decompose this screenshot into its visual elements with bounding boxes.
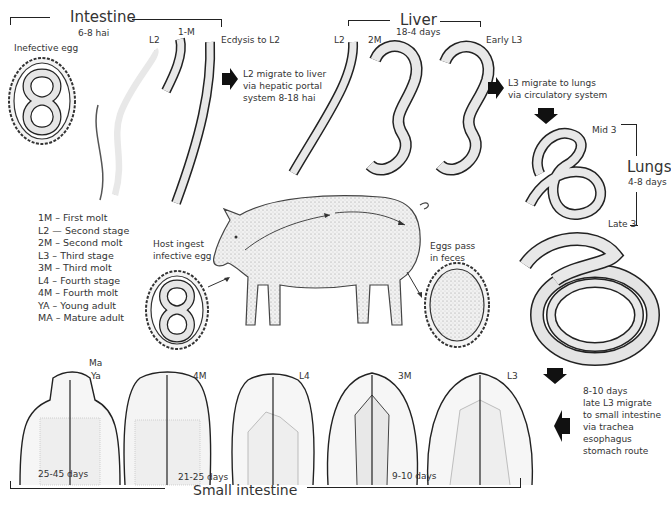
note-to-intestine: 8-10 days late L3 migrate to small intes… xyxy=(583,385,661,457)
intestine-bracket-left xyxy=(10,17,50,18)
legend-item: YA – Young adult xyxy=(38,300,129,313)
4m-head-illustration xyxy=(120,370,215,485)
legend-item: 2M – Second molt xyxy=(38,237,129,250)
ingested-egg-illustration xyxy=(143,268,211,352)
arrow-to-lungs-icon xyxy=(488,77,504,99)
liver-bracket-tick-left xyxy=(348,20,349,26)
small-intestine-bracket-tick-right xyxy=(520,478,521,488)
l2-ecdysis-larva xyxy=(170,38,220,208)
legend-item: L4 – Fourth stage xyxy=(38,275,129,288)
lungs-bracket-top xyxy=(621,124,637,125)
liver-bracket-right xyxy=(440,21,481,22)
late3-larva xyxy=(505,225,665,375)
duration-9-10: 9-10 days xyxy=(392,470,437,482)
arrow-to-liver-icon xyxy=(222,68,238,90)
abbreviation-legend: 1M – First molt L2 — Second stage 2M – S… xyxy=(38,212,129,325)
legend-item: 1M – First molt xyxy=(38,212,129,225)
pig-illustration xyxy=(210,185,435,335)
duration-25-45: 25-45 days xyxy=(38,468,88,480)
label-infective-egg: Inefective egg xyxy=(14,42,78,54)
early-l3-larva xyxy=(435,40,505,180)
note-to-lungs: L3 migrate to lungs via circulatory syst… xyxy=(508,77,607,101)
arrow-down-to-intestine-icon xyxy=(543,368,567,384)
l2-larva-liver xyxy=(285,38,365,178)
lungs-bracket-tick-upper xyxy=(636,124,637,156)
intestine-bracket-right xyxy=(132,19,222,20)
intestine-bracket-tick-left xyxy=(10,17,11,25)
legend-item: 4M – Fourth molt xyxy=(38,287,129,300)
2m-larva xyxy=(365,40,435,180)
liver-bracket-left xyxy=(348,20,390,21)
arrow-down-to-lungs-icon xyxy=(534,108,558,124)
small-intestine-bracket-right xyxy=(307,487,521,488)
fecal-egg-illustration xyxy=(422,260,492,350)
mid3-larva xyxy=(520,124,620,224)
intestine-bracket-tick-right xyxy=(221,19,222,27)
small-intestine-heading: Small intestine xyxy=(193,482,297,498)
intestine-time: 6-8 hai xyxy=(78,28,109,38)
lungs-heading: Lungs xyxy=(627,158,671,176)
legend-item: 3M – Third molt xyxy=(38,262,129,275)
legend-item: L2 — Second stage xyxy=(38,225,129,238)
small-intestine-bracket-left xyxy=(10,488,165,489)
note-host-ingest: Host ingest infective egg xyxy=(153,238,212,262)
l4-head-illustration xyxy=(228,372,318,485)
legend-item: MA – Mature adult xyxy=(38,312,129,325)
lungs-time: 4-8 days xyxy=(628,177,667,187)
label-ma: Ma xyxy=(89,357,102,369)
intestine-heading: Intestine xyxy=(70,8,136,26)
l2-larva-intestine xyxy=(90,45,170,205)
arrow-left-to-intestine-icon xyxy=(554,410,570,442)
liver-time: 18-4 days xyxy=(396,27,441,37)
liver-bracket-tick-right xyxy=(480,21,481,27)
3m-head-illustration xyxy=(325,370,420,485)
legend-item: L3 – Third stage xyxy=(38,250,129,263)
label-ecdysis: Ecdysis to L2 xyxy=(221,34,280,46)
infective-egg-illustration xyxy=(6,55,78,147)
l3-head-illustration xyxy=(425,370,535,485)
